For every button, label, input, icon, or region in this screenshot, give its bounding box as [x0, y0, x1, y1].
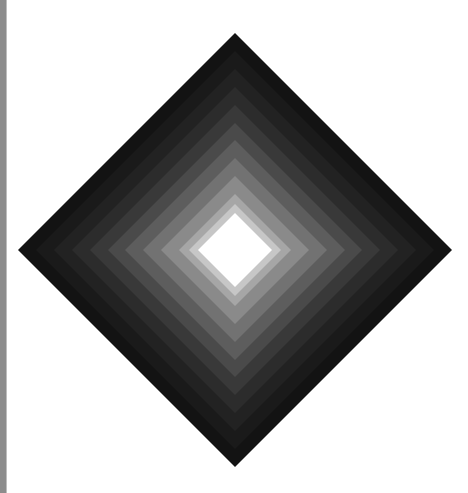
- concentric-diamond-graphic: [0, 0, 468, 493]
- image-canvas: [0, 0, 468, 493]
